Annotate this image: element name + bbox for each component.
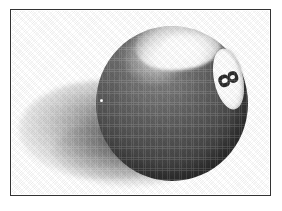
ball-pinpoint-highlight-icon bbox=[100, 99, 103, 102]
artwork-stage: 8 bbox=[11, 10, 270, 195]
image-canvas: 8 bbox=[0, 0, 282, 211]
rectangular-border: 8 bbox=[10, 9, 271, 196]
